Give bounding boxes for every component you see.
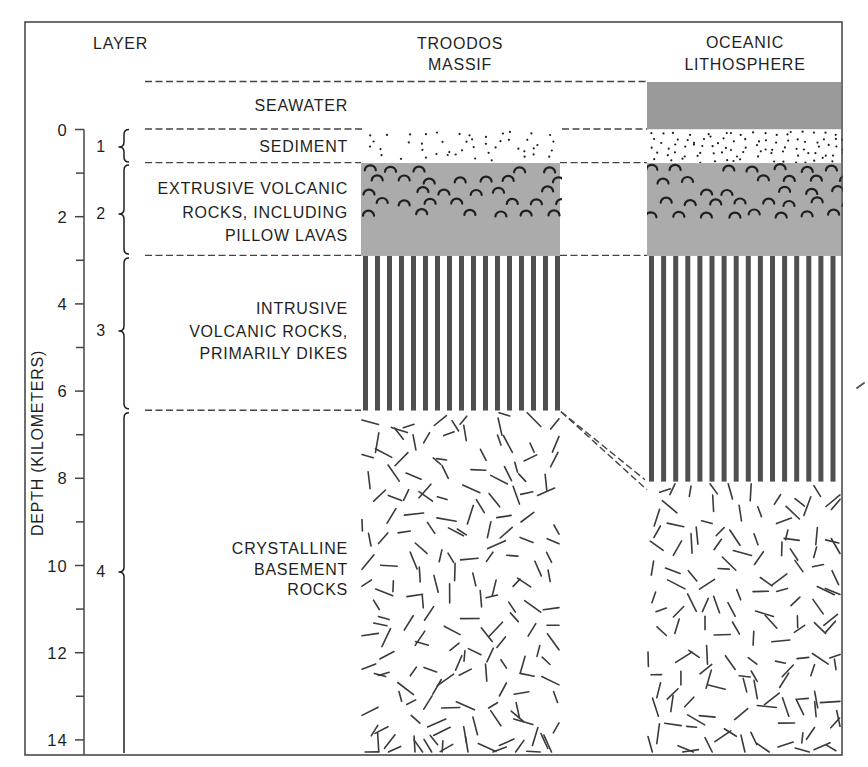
crystal-segment [702,598,708,611]
troodos-column [361,131,570,752]
sediment-dot [730,132,732,134]
sediment-dot [721,151,723,153]
crystal-segment [757,706,776,708]
crystal-segment [739,676,750,677]
crystal-segment [442,741,443,752]
crystal-segment [688,594,697,612]
sediment-dot [379,148,381,150]
crystal-segment [476,500,484,513]
crystal-segment [467,505,473,524]
description-line: VOLCANIC ROCKS, [100,321,348,344]
sediment-dot [831,160,833,162]
crystal-segment [548,570,550,581]
sediment-dot [744,138,746,140]
sediment-dot [797,138,799,140]
crystal-segment [657,683,661,698]
crystal-segment [430,735,438,744]
crystal-segment [410,667,416,676]
sediment-dot [701,145,703,147]
crystal-segment [707,646,708,665]
crystal-segment [751,732,757,744]
crystal-segment [379,672,390,675]
sediment-dot [568,131,570,133]
dike-stripe [507,256,512,411]
crystal-segment [543,608,559,610]
layer-4-description: CRYSTALLINE BASEMENT ROCKS [100,539,348,601]
crystal-segment [524,455,537,461]
sediment-dot [536,144,538,146]
sediment-dot [465,141,467,143]
crystal-segment [424,668,437,673]
sediment-dot [448,151,450,153]
crystal-segment [414,736,415,752]
crystal-segment [520,673,534,676]
sediment-dot [468,134,470,136]
crystal-segment [725,656,735,670]
dike-stripe [495,256,500,411]
dike-stripe [806,256,811,482]
sediment-dot [786,133,788,135]
oceanic-seawater-layer [647,82,841,130]
crystal-segment [362,455,373,458]
crystal-segment [554,692,558,703]
crystal-segment [480,449,486,460]
crystal-segment [660,489,671,492]
crystal-segment [499,683,506,696]
sediment-dot [668,148,670,150]
crystal-segment [424,433,430,443]
sediment-dot [790,131,792,133]
crystal-segment [362,633,378,635]
crystal-segment [832,571,839,585]
crystal-segment [466,737,469,752]
dike-stripe [543,256,548,411]
crystal-segment [784,538,799,540]
crystal-segment [790,549,798,560]
sediment-dot [455,153,457,155]
crystal-segment [535,561,541,576]
crystal-segment [519,474,526,482]
crystal-segment [830,654,840,658]
crystal-segment [739,505,741,521]
crystal-segment [489,493,500,506]
sediment-dot [752,131,754,133]
dike-stripe [387,256,392,411]
crystal-segment [774,495,780,505]
crystal-segment [486,664,487,681]
sediment-dot [757,155,759,157]
crystal-segment [493,747,506,752]
crystal-segment [689,486,691,496]
crystal-segment [419,567,420,582]
crystal-segment [530,443,534,452]
crystal-segment [520,537,533,542]
crystal-segment [411,715,420,723]
heading-line: OCEANIC [635,32,855,54]
crystal-segment [387,509,396,524]
crystal-segment [807,728,815,740]
sediment-dot [660,142,662,144]
sediment-dot [726,159,728,161]
crystal-segment [488,541,506,549]
dike-stripe [531,256,536,411]
sediment-dot [787,140,789,142]
crystal-segment [442,466,448,479]
crystal-segment [393,581,394,592]
sediment-dot [386,134,388,136]
sediment-dot [369,146,371,148]
sediment-dot [709,136,711,138]
crystal-segment [505,467,512,481]
description-line: PRIMARILY DIKES [100,343,348,366]
depth-tick-label: 2 [20,207,68,227]
crystal-segment [777,588,788,591]
dike-stripe [758,256,763,482]
crystal-segment [499,739,514,746]
crystal-segment [362,420,379,425]
crystal-segment [668,580,685,589]
sediment-dot [485,143,487,145]
sediment-dot [816,142,818,144]
crystal-segment [650,541,663,550]
crystal-segment [532,728,538,746]
depth-axis [75,130,84,756]
sediment-dot [835,145,837,147]
sediment-dot [703,138,705,140]
crystal-segment [362,664,376,669]
